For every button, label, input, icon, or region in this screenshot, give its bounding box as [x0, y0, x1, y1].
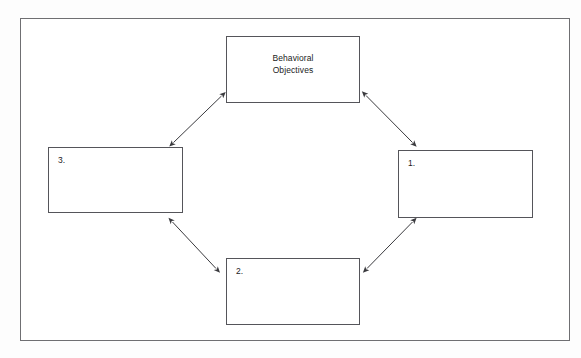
step-2-label: 2. — [236, 266, 243, 277]
diagram-box-step-1[interactable]: 1. — [398, 150, 533, 218]
behavioral-objectives-line-2: Objectives — [227, 65, 359, 77]
page-canvas: Behavioral Objectives 1. 2. 3. — [0, 0, 581, 358]
step-3-label: 3. — [58, 155, 65, 166]
step-1-label: 1. — [408, 158, 415, 169]
diagram-box-step-2[interactable]: 2. — [226, 258, 360, 325]
diagram-box-behavioral-objectives[interactable]: Behavioral Objectives — [226, 36, 360, 103]
diagram-box-step-3[interactable]: 3. — [48, 147, 183, 213]
behavioral-objectives-text: Behavioral Objectives — [227, 53, 359, 76]
behavioral-objectives-line-1: Behavioral — [227, 53, 359, 65]
